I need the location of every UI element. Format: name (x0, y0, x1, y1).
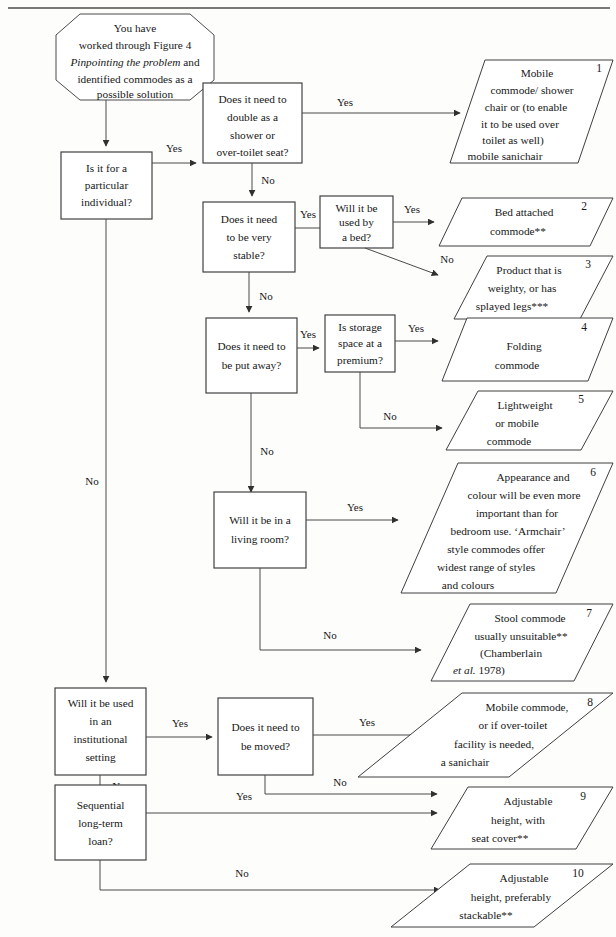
edge-label-d10-no: No (235, 867, 249, 879)
o2-line-2: commode** (490, 225, 546, 237)
o7-line-2: usually unsuitable** (474, 630, 568, 642)
o8-line-3: facility is needed, (454, 738, 534, 750)
outcome-mobile-commode-shower-chair: 1 Mobile commode/ shower chair or (to en… (450, 60, 613, 163)
edge-label-d8-yes: Yes (172, 717, 188, 729)
o8-line-1: Mobile commode, (486, 701, 569, 713)
o1-line-6: mobile sanichair (468, 150, 543, 162)
d3-line-3: stable? (233, 249, 264, 261)
d1-line-2: particular (85, 179, 129, 191)
edge-label-d4-no: No (440, 253, 454, 265)
flowchart-canvas: You have worked through Figure 4 Pinpoin… (0, 0, 616, 937)
edge-label-d9-no: No (333, 776, 347, 788)
o1-line-5: toilet as well) (482, 134, 544, 147)
d8-line-1: Will it be used (68, 697, 134, 709)
edge-label-d5-no: No (260, 445, 274, 457)
outcome-4-number: 4 (581, 321, 587, 333)
decision-need-to-be-moved: Does it need to be moved? (218, 698, 313, 775)
edge-label-d2-yes: Yes (337, 96, 353, 108)
o4-line-2: commode (495, 359, 540, 371)
flowchart-figure: You have worked through Figure 4 Pinpoin… (0, 0, 616, 937)
o6-line-3: important than for (476, 507, 558, 519)
decision-particular-individual: Is it for a particular individual? (61, 152, 152, 219)
start-line-1: You have (114, 22, 156, 34)
o6-line-4: bedroom use. ‘Armchair’ (451, 525, 566, 537)
decision-used-by-bed: Will it be used by a bed? (320, 196, 393, 248)
d5-line-1: Does it need to (217, 340, 285, 352)
edge-label-d6-no: No (383, 410, 397, 422)
start-line-4: identified commodes as a (77, 73, 192, 85)
outcome-7-number: 7 (586, 607, 592, 619)
o6-line-6: widest range of styles (437, 561, 535, 573)
o9-line-2: height, with (491, 814, 545, 826)
o5-line-1: Lightweight (497, 399, 553, 411)
edge-label-d6-yes: Yes (408, 322, 424, 334)
outcome-appearance-and-colour: 6 Appearance and colour will be even mor… (401, 463, 613, 593)
d2-line-3: shower or (230, 129, 275, 141)
o7-line-3: (Chamberlain (480, 647, 542, 660)
decision-institutional-setting: Will it be used in an institutional sett… (55, 688, 146, 775)
d7-line-2: living room? (231, 533, 289, 545)
edge-label-d1-yes: Yes (166, 142, 182, 154)
edge-label-d5-yes: Yes (300, 328, 316, 340)
outcome-3-number: 3 (585, 258, 591, 270)
d4-line-1: Will it be (335, 202, 377, 214)
o7-line-4: et al. 1978) (453, 664, 505, 677)
d10-line-2: long-term (78, 817, 123, 829)
o1-line-4: it to be used over (481, 118, 559, 130)
outcome-weighty-splayed-legs: 3 Product that is weighty, or has splaye… (454, 256, 613, 319)
edge-label-d7-yes: Yes (347, 501, 363, 513)
outcome-stool-commode-unsuitable: 7 Stool commode usually unsuitable** (Ch… (431, 604, 613, 681)
d2-line-1: Does it need to (218, 93, 286, 105)
decision-storage-premium: Is storage space at a premium? (325, 315, 395, 372)
o2-line-1: Bed attached (495, 206, 554, 218)
outcome-lightweight-mobile-commode: 5 Lightweight or mobile commode (446, 391, 613, 450)
edge-d7-out7 (260, 568, 421, 650)
edge-label-d4-yes: Yes (404, 203, 420, 215)
d8-line-4: setting (85, 751, 115, 763)
d8-line-2: in an (89, 715, 112, 727)
d1-line-1: Is it for a (86, 162, 127, 174)
edge-d9-out9 (265, 775, 437, 794)
o3-line-2: weighty, or has (488, 282, 557, 294)
d1-line-3: individual? (81, 196, 132, 208)
d6-line-2: space at a (338, 337, 382, 349)
o10-line-2: height, preferably (471, 891, 552, 903)
outcome-1-number: 1 (596, 62, 602, 74)
d3-line-2: to be very (226, 231, 272, 243)
decision-living-room: Will it be in a living room? (214, 492, 306, 568)
decision-double-as-shower: Does it need to double as a shower or ov… (203, 83, 302, 163)
o5-line-3: commode (487, 435, 532, 447)
outcome-10-number: 10 (572, 867, 584, 879)
o8-line-2: or if over-toilet (479, 719, 549, 731)
outcome-folding-commode: 4 Folding commode (442, 318, 613, 381)
d5-line-2: be put away? (222, 359, 282, 371)
o5-line-2: or mobile (495, 417, 539, 429)
outcome-2-number: 2 (581, 200, 587, 212)
o1-line-1: Mobile (521, 67, 554, 79)
start-line-2: worked through Figure 4 (79, 39, 192, 51)
d3-line-1: Does it need (221, 213, 278, 225)
edge-label-d3-no: No (259, 290, 273, 302)
d6-line-3: premium? (337, 354, 383, 366)
d10-line-3: loan? (88, 835, 112, 847)
outcome-9-number: 9 (580, 790, 586, 802)
o6-line-1: Appearance and (496, 471, 569, 483)
edge-label-d10-yes: Yes (236, 790, 252, 802)
edge-d10-out10 (100, 860, 440, 890)
o6-line-5: style commodes offer (447, 543, 545, 555)
edge-label-d3-yes: Yes (300, 208, 316, 220)
d4-line-2: used by (339, 216, 374, 228)
outcome-adjustable-height-stackable: 10 Adjustable height, preferably stackab… (391, 864, 613, 927)
d4-line-3: a bed? (342, 231, 371, 243)
o6-line-7: and colours (442, 579, 494, 591)
o3-line-3: splayed legs*** (476, 300, 549, 312)
o8-line-4: a sanichair (441, 756, 490, 768)
edge-label-d1-no: No (85, 475, 99, 487)
outcome-6-number: 6 (590, 466, 596, 478)
outcome-bed-attached-commode: 2 Bed attached commode** (439, 198, 613, 246)
d2-line-2: double as a (227, 111, 278, 123)
decision-very-stable: Does it need to be very stable? (203, 202, 295, 272)
d8-line-3: institutional (74, 733, 128, 745)
decision-put-away: Does it need to be put away? (206, 318, 297, 393)
d2-line-4: over-toilet seat? (216, 146, 288, 158)
